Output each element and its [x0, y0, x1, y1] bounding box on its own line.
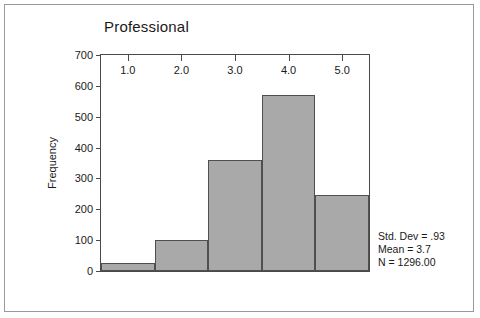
y-tick-label: 500 — [75, 111, 93, 123]
histogram-bar — [315, 195, 369, 271]
histogram-screenshot: Professional Frequency 01002003004005006… — [0, 0, 480, 318]
y-tick-label: 400 — [75, 142, 93, 154]
stat-std-dev: Std. Dev = .93 — [378, 230, 445, 243]
y-tick-label: 600 — [75, 80, 93, 92]
x-tick-label: 5.0 — [335, 64, 350, 76]
y-tick-label: 100 — [75, 234, 93, 246]
y-tick-mark — [96, 240, 101, 241]
x-tick-mark — [289, 55, 290, 61]
x-tick-label: 3.0 — [227, 64, 242, 76]
x-tick-label: 4.0 — [281, 64, 296, 76]
x-tick-mark — [181, 55, 182, 61]
y-tick-mark — [96, 209, 101, 210]
plot-area: 0100200300400500600700 1.02.03.04.05.0 — [100, 54, 370, 272]
y-tick-mark — [96, 271, 101, 272]
y-tick-label: 700 — [75, 49, 93, 61]
x-tick-label: 1.0 — [120, 64, 135, 76]
y-tick-label: 0 — [87, 265, 93, 277]
y-tick-label: 200 — [75, 203, 93, 215]
y-tick-mark — [96, 178, 101, 179]
y-tick-mark — [96, 55, 101, 56]
chart-title: Professional — [104, 18, 189, 35]
histogram-bar — [262, 95, 316, 271]
bars-layer — [101, 55, 369, 271]
y-tick-mark — [96, 148, 101, 149]
y-tick-label: 300 — [75, 172, 93, 184]
histogram-bar — [101, 263, 155, 271]
x-tick-mark — [235, 55, 236, 61]
stat-mean: Mean = 3.7 — [378, 243, 445, 256]
y-axis-title: Frequency — [46, 137, 58, 189]
x-tick-mark — [128, 55, 129, 61]
statistics-annotation: Std. Dev = .93 Mean = 3.7 N = 1296.00 — [378, 230, 445, 269]
x-tick-label: 2.0 — [174, 64, 189, 76]
histogram-bar — [208, 160, 262, 271]
y-tick-mark — [96, 117, 101, 118]
y-tick-mark — [96, 86, 101, 87]
stat-n: N = 1296.00 — [378, 256, 445, 269]
histogram-bar — [155, 240, 209, 271]
x-tick-mark — [342, 55, 343, 61]
